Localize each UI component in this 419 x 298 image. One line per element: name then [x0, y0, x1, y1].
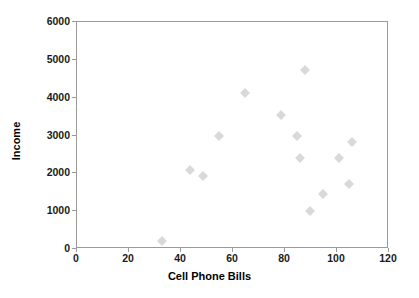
data-point [214, 131, 224, 141]
data-point [300, 65, 310, 75]
data-point-layer [0, 0, 419, 298]
data-point [198, 171, 208, 181]
data-point [276, 110, 286, 120]
scatter-chart: 0100020003000400050006000 02040608010012… [0, 0, 419, 298]
data-point [185, 165, 195, 175]
y-axis-title: Income [10, 101, 22, 181]
data-point [157, 236, 167, 246]
data-point [240, 88, 250, 98]
data-point [318, 189, 328, 199]
data-point [334, 153, 344, 163]
data-point [292, 131, 302, 141]
x-axis-title: Cell Phone Bills [0, 270, 419, 282]
data-point [347, 137, 357, 147]
data-point [305, 206, 315, 216]
data-point [344, 179, 354, 189]
data-point [295, 153, 305, 163]
